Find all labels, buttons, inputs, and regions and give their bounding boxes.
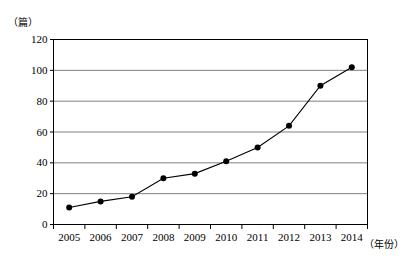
line-chart: （篇） 020406080100120 20052006200720082009… [0, 0, 413, 262]
data-point [129, 194, 135, 200]
y-axis-tick-label: 80 [8, 96, 48, 107]
data-point [349, 64, 355, 70]
data-point [255, 144, 261, 150]
y-axis-tick-label: 60 [8, 127, 48, 138]
data-point [98, 198, 104, 204]
y-axis-tick-label: 40 [8, 157, 48, 168]
data-line [69, 67, 352, 207]
data-point [223, 158, 229, 164]
data-point [160, 175, 166, 181]
data-point [317, 83, 323, 89]
y-axis-tick-label: 120 [8, 34, 48, 45]
y-axis-ticks [50, 40, 54, 225]
y-axis-tick-label: 0 [8, 219, 48, 230]
y-axis-tick-label: 20 [8, 188, 48, 199]
data-markers [66, 64, 355, 210]
data-point [192, 171, 198, 177]
data-point [286, 123, 292, 129]
plot-area [0, 0, 413, 262]
x-axis-ticks [54, 225, 368, 230]
gridlines [54, 70, 368, 193]
x-axis-unit-label: （年份） [364, 236, 404, 251]
y-axis-tick-label: 100 [8, 65, 48, 76]
data-point [66, 205, 72, 211]
